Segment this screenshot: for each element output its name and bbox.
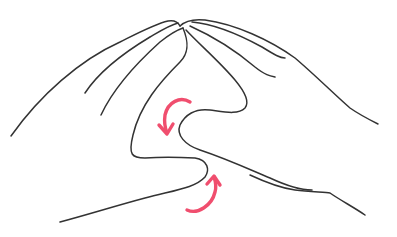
rotation-arrows	[159, 100, 220, 212]
hands-drawing	[0, 0, 397, 237]
right-finger-line-1	[192, 22, 285, 58]
left-hand	[11, 21, 208, 222]
left-finger-line-1	[85, 23, 178, 93]
hand-gesture-illustration: Two hands with fingertips touching at to…	[0, 0, 397, 237]
right-finger-line-2	[190, 26, 275, 77]
left-index-finger	[60, 28, 208, 222]
rotate-arrow-bottom-icon	[187, 176, 220, 211]
right-hand	[179, 20, 378, 215]
right-palm-line	[250, 175, 365, 215]
right-index-finger	[179, 30, 312, 190]
